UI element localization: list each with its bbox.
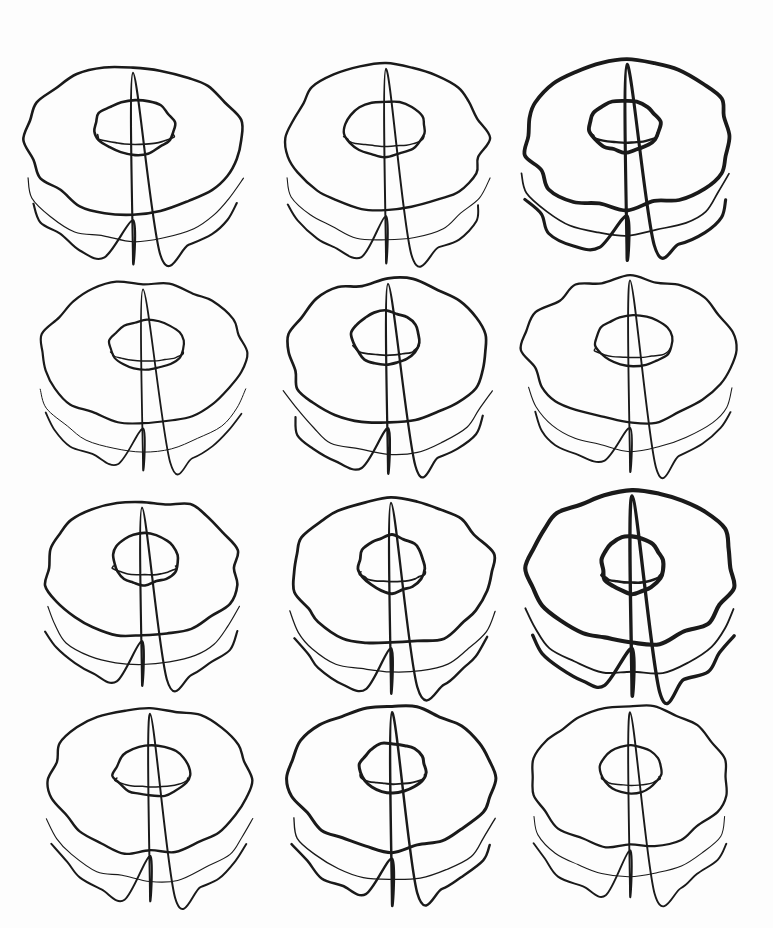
artwork-canvas [0,0,773,928]
donut-grid-illustration [0,0,773,928]
